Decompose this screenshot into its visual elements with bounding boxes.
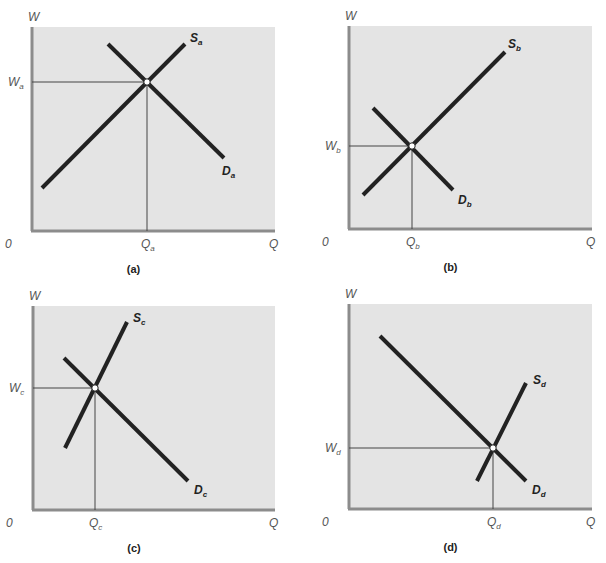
y-axis-label: W bbox=[29, 289, 42, 303]
panel-a: SaDaW0QWaQa(a) bbox=[5, 10, 278, 275]
demand-curve-label-c-main: D bbox=[194, 483, 203, 497]
equilibrium-point-c bbox=[92, 385, 98, 391]
equilibrium-quantity-label-a-subscript: a bbox=[150, 244, 155, 253]
equilibrium-wage-label-d-subscript: d bbox=[336, 448, 341, 457]
panel-caption: (b) bbox=[443, 261, 457, 273]
demand-curve-label-b-main: D bbox=[458, 193, 467, 207]
supply-curve-label-a-main: S bbox=[190, 31, 198, 45]
equilibrium-quantity-label-a-main: Q bbox=[141, 237, 150, 251]
y-axis-label: W bbox=[345, 287, 358, 301]
panel-caption: (d) bbox=[443, 541, 457, 553]
y-axis-label: W bbox=[28, 10, 41, 24]
equilibrium-wage-label-a-subscript: a bbox=[19, 82, 24, 91]
four-panel-labor-market-figure: SaDaW0QWaQa(a)SbDbW0QWbQb(b)ScDcW0QWcQc(… bbox=[0, 0, 606, 563]
supply-curve-label-b-subscript: b bbox=[516, 44, 521, 53]
plot-area bbox=[33, 306, 275, 510]
supply-curve-label-a-subscript: a bbox=[198, 38, 203, 47]
origin-label: 0 bbox=[322, 515, 329, 529]
y-axis-label: W bbox=[345, 9, 358, 23]
equilibrium-quantity-label-d-main: Q bbox=[487, 515, 496, 529]
equilibrium-quantity-label-c-main: Q bbox=[89, 516, 98, 530]
equilibrium-point-b bbox=[409, 143, 415, 149]
supply-curve-label-d-main: S bbox=[533, 373, 541, 387]
x-axis-label: Q bbox=[586, 235, 595, 249]
equilibrium-quantity-label-b: Qb bbox=[406, 235, 420, 251]
supply-curve-label-b-main: S bbox=[508, 37, 516, 51]
demand-curve-label-b-subscript: b bbox=[467, 200, 472, 209]
equilibrium-quantity-label-c-subscript: c bbox=[98, 523, 102, 532]
equilibrium-wage-label-a: Wa bbox=[8, 75, 24, 91]
supply-curve-label-c-main: S bbox=[133, 311, 141, 325]
panel-caption: (c) bbox=[127, 542, 141, 554]
panel-d: SdDdW0QWdQd(d) bbox=[322, 287, 595, 553]
demand-curve-label-a-subscript: a bbox=[231, 171, 236, 180]
equilibrium-wage-label-b-subscript: b bbox=[336, 146, 341, 155]
equilibrium-quantity-label-b-main: Q bbox=[406, 235, 415, 249]
origin-label: 0 bbox=[6, 516, 13, 530]
demand-curve-label-c-subscript: c bbox=[203, 490, 208, 499]
panel-c: ScDcW0QWcQc(c) bbox=[6, 289, 278, 554]
demand-curve-label-d-main: D bbox=[532, 483, 541, 497]
origin-label: 0 bbox=[5, 237, 12, 251]
x-axis-label: Q bbox=[269, 516, 278, 530]
equilibrium-quantity-label-a: Qa bbox=[141, 237, 155, 253]
supply-curve-label-c-subscript: c bbox=[141, 318, 146, 327]
equilibrium-quantity-label-d-subscript: d bbox=[496, 522, 501, 531]
equilibrium-wage-label-c-subscript: c bbox=[20, 388, 24, 397]
equilibrium-point-a bbox=[144, 79, 150, 85]
plot-area bbox=[349, 304, 592, 509]
equilibrium-quantity-label-c: Qc bbox=[89, 516, 102, 532]
panel-b: SbDbW0QWbQb(b) bbox=[322, 9, 595, 273]
equilibrium-wage-label-d: Wd bbox=[325, 441, 341, 457]
plot-area bbox=[349, 26, 592, 229]
equilibrium-quantity-label-b-subscript: b bbox=[415, 242, 420, 251]
x-axis-label: Q bbox=[586, 515, 595, 529]
equilibrium-wage-label-b: Wb bbox=[325, 139, 341, 155]
plot-area bbox=[32, 27, 275, 231]
equilibrium-wage-label-c: Wc bbox=[9, 381, 24, 397]
equilibrium-point-d bbox=[490, 445, 496, 451]
origin-label: 0 bbox=[322, 235, 329, 249]
x-axis-label: Q bbox=[269, 237, 278, 251]
equilibrium-quantity-label-d: Qd bbox=[487, 515, 501, 531]
panel-caption: (a) bbox=[127, 263, 141, 275]
demand-curve-label-a-main: D bbox=[222, 164, 231, 178]
